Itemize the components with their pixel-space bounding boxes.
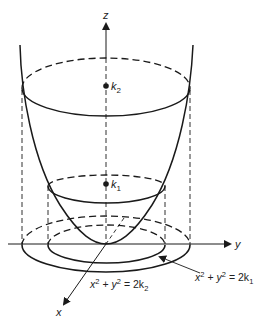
pointer-arrow	[160, 257, 200, 273]
z-axis-label: z	[102, 9, 109, 21]
x-axis-label: x	[55, 306, 62, 318]
y-axis: y	[8, 238, 242, 250]
svg-text:k1: k1	[111, 178, 122, 193]
paraboloid-surface	[20, 45, 193, 244]
equation-k1: x2+y2= 2k1	[194, 270, 253, 286]
level-curve-k1	[48, 175, 165, 203]
z-axis: z	[102, 9, 109, 58]
paraboloid-diagram: z y x k2 k1 x2+	[0, 0, 266, 326]
y-axis-label: y	[234, 238, 242, 250]
svg-text:k2: k2	[111, 80, 122, 95]
equation-k2: x2+y2= 2k2	[89, 277, 148, 293]
